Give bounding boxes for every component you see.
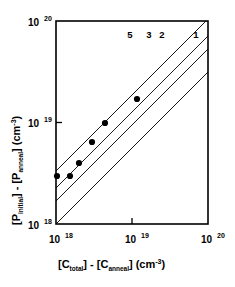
reference-line-label-5: 5 xyxy=(127,29,133,40)
xtick-label-1e18-mantissa: 10 xyxy=(49,234,61,245)
x-axis-title: [Ctotal] - [Canneal] (cm-3) xyxy=(58,258,166,272)
ytick-label-1e20-exponent: 20 xyxy=(44,15,52,22)
y-tick-labels: 10 20 10 19 10 18 xyxy=(28,15,52,231)
ytick-label-1e18-mantissa: 10 xyxy=(28,220,40,231)
xtick-label-1e20-exponent: 20 xyxy=(217,232,225,239)
y-axis-title-part4: ) xyxy=(10,115,22,119)
x-axis-title-sub1: total xyxy=(70,265,84,272)
data-point xyxy=(76,160,82,166)
data-point xyxy=(102,120,108,126)
data-point xyxy=(54,173,60,179)
y-axis-title-part2: ] - [P xyxy=(10,173,22,197)
ytick-label-1e18-exponent: 18 xyxy=(44,218,52,225)
chart-svg: 5 3 2 1 10 20 10 19 10 18 10 18 10 19 10… xyxy=(0,0,235,287)
y-axis-title: [Pinitial] - [Panneal] (cm-3) xyxy=(10,115,24,225)
reference-line-label-1: 1 xyxy=(193,29,199,40)
plot-frame xyxy=(56,21,208,224)
ytick-label-1e19-mantissa: 10 xyxy=(28,118,40,129)
ytick-label-1e19-exponent: 19 xyxy=(44,116,52,123)
y-axis-title-part3: ] (cm xyxy=(10,125,22,152)
y-axis-title-sub2: anneal xyxy=(17,152,24,173)
figure-container: 5 3 2 1 10 20 10 19 10 18 10 18 10 19 10… xyxy=(0,0,235,287)
xtick-label-1e19-mantissa: 10 xyxy=(125,234,137,245)
svg-text:[Pinitial] - [Panneal] (cm-3): [Pinitial] - [Panneal] (cm-3) xyxy=(10,115,24,225)
x-tick-labels: 10 18 10 19 10 20 xyxy=(49,232,225,245)
reference-line-label-2: 2 xyxy=(159,29,164,40)
data-point xyxy=(134,96,140,102)
svg-text:[Ctotal] - [Canneal] (cm-3): [Ctotal] - [Canneal] (cm-3) xyxy=(58,258,166,272)
reference-line-label-3: 3 xyxy=(146,29,151,40)
y-axis-title-part1: [P xyxy=(10,214,22,225)
x-axis-title-part4: ) xyxy=(162,258,166,270)
xtick-label-1e19-exponent: 19 xyxy=(141,232,149,239)
y-axis-title-sub1: initial xyxy=(17,197,24,214)
xtick-label-1e18-exponent: 18 xyxy=(65,232,73,239)
x-axis-title-part2: ] - [C xyxy=(83,258,108,270)
x-axis-title-part1: [C xyxy=(58,258,70,270)
ytick-label-1e20-mantissa: 10 xyxy=(28,17,40,28)
x-axis-title-sub2: anneal xyxy=(108,265,129,272)
data-point xyxy=(67,173,73,179)
x-axis-title-part3: ] (cm xyxy=(129,258,156,270)
data-point xyxy=(89,139,95,145)
xtick-label-1e20-mantissa: 10 xyxy=(201,234,213,245)
